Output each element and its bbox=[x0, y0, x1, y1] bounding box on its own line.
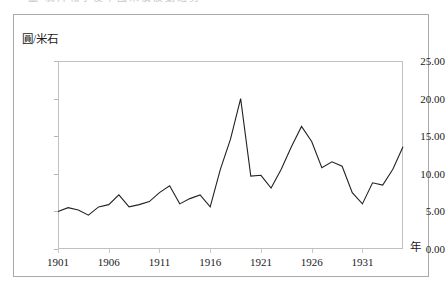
x-tick-mark bbox=[210, 249, 211, 253]
x-tick-label: 1931 bbox=[351, 256, 373, 268]
x-tick-mark bbox=[58, 249, 59, 253]
series-polyline bbox=[58, 99, 403, 216]
x-tick-mark bbox=[159, 249, 160, 253]
y-axis-unit-label: 圓/米石 bbox=[22, 30, 58, 46]
clipped-caption-sliver: 圖 鴉片戰爭後中國米價波動趨勢 bbox=[28, 0, 418, 5]
x-tick-mark bbox=[312, 249, 313, 253]
x-tick-mark bbox=[109, 249, 110, 253]
figure-container: 圖 鴉片戰爭後中國米價波動趨勢 圓/米石 年 0.005.0010.0015.0… bbox=[0, 0, 445, 297]
x-tick-label: 1921 bbox=[250, 256, 272, 268]
x-tick-label: 1911 bbox=[149, 256, 171, 268]
x-tick-label: 1901 bbox=[47, 256, 69, 268]
x-tick-label: 1906 bbox=[98, 256, 120, 268]
x-tick-mark bbox=[362, 249, 363, 253]
price-line-series bbox=[58, 61, 403, 249]
plot-area bbox=[58, 61, 403, 249]
x-tick-label: 1926 bbox=[301, 256, 323, 268]
x-tick-label: 1916 bbox=[199, 256, 221, 268]
x-tick-mark bbox=[261, 249, 262, 253]
